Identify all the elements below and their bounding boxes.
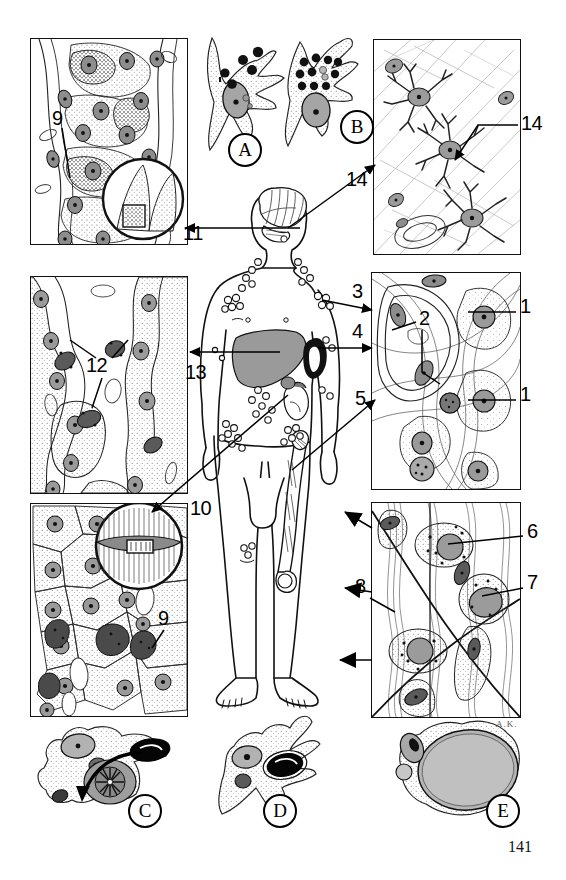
numeric-label-5: 5 [355, 388, 366, 408]
leader-12-c [92, 378, 102, 408]
circle-label-a-text: A [238, 139, 252, 161]
numeric-label-2: 2 [419, 308, 430, 328]
leader-9-top [62, 128, 70, 178]
numeric-label-6: 6 [527, 521, 538, 541]
leader-3 [322, 300, 372, 310]
leader-2-b [392, 322, 416, 330]
leader-5 [292, 400, 375, 470]
page-number: 141 [508, 838, 532, 856]
numeric-label-13: 13 [185, 362, 206, 382]
numeric-label-7: 7 [527, 572, 538, 592]
circle-label-d-text: D [273, 800, 287, 822]
numeric-label-4: 4 [352, 321, 363, 341]
artist-signature: A.K. [496, 719, 518, 729]
leader-6 [448, 536, 523, 544]
leader-7 [482, 588, 523, 596]
circle-label-b-text: B [351, 116, 364, 138]
numeric-label-1-upper: 1 [520, 296, 531, 316]
numeric-label-8: 8 [355, 576, 366, 596]
leader-2-a [422, 330, 440, 384]
circle-label-d: D [263, 794, 297, 828]
numeric-label-9-top: 9 [52, 108, 63, 128]
circle-label-c-text: C [139, 800, 152, 822]
leader-12-b [112, 340, 128, 358]
leader-8-stem [370, 598, 395, 612]
circle-label-a: A [228, 133, 262, 167]
numeric-label-14-left: 14 [346, 169, 367, 189]
circle-label-e: E [486, 794, 520, 828]
numeric-label-10: 10 [190, 498, 211, 518]
leader-14-right [455, 125, 518, 160]
numeric-label-9-bottom: 9 [158, 608, 169, 628]
numeric-label-11: 11 [183, 223, 203, 243]
leader-9-bottom [152, 630, 164, 648]
leader-10 [152, 395, 288, 512]
numeric-label-14-right: 14 [521, 113, 542, 133]
circle-label-c: C [128, 794, 162, 828]
numeric-label-3: 3 [352, 281, 363, 301]
circle-label-e-text: E [497, 800, 509, 822]
numeric-label-12: 12 [86, 355, 107, 375]
circle-label-b: B [340, 110, 374, 144]
leader-8-arrow1 [345, 512, 372, 528]
leader-lines [0, 0, 566, 880]
histology-figure-plate: 1 1 2 3 4 5 6 7 8 9 9 10 11 12 13 14 14 … [0, 0, 566, 880]
numeric-label-1-lower: 1 [520, 384, 531, 404]
